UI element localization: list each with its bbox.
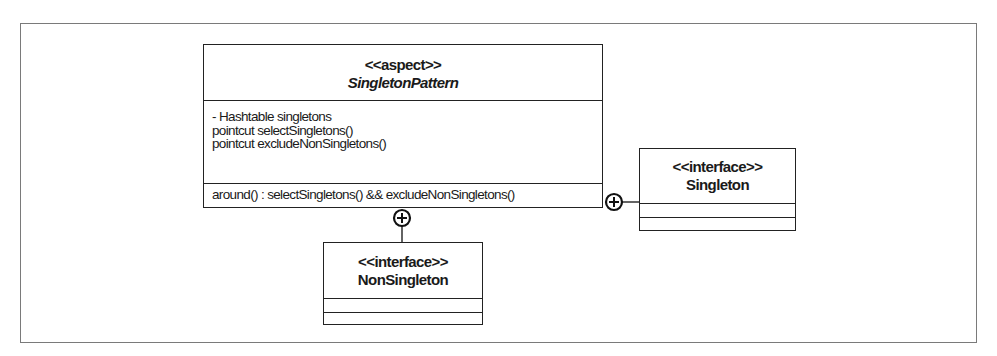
class-header: <<aspect>> SingletonPattern <box>204 45 602 100</box>
attributes-compartment <box>640 203 795 217</box>
stereotype-label: <<interface>> <box>673 158 763 176</box>
class-singleton: <<interface>> Singleton <box>639 148 796 231</box>
operations-compartment <box>324 312 482 324</box>
class-singleton-pattern: <<aspect>> SingletonPattern - Hashtable … <box>203 44 603 208</box>
attributes-compartment: - Hashtable singletons pointcut selectSi… <box>204 100 602 183</box>
stereotype-label: <<aspect>> <box>365 56 442 74</box>
pointcut-select-singletons: pointcut selectSingletons() <box>212 124 602 138</box>
operation-around-advice: around() : selectSingletons() && exclude… <box>212 188 602 202</box>
class-header: <<interface>> NonSingleton <box>324 243 482 298</box>
class-name: Singleton <box>686 176 749 194</box>
attributes-compartment <box>324 298 482 312</box>
attribute-singletons: - Hashtable singletons <box>212 110 602 124</box>
class-name: SingletonPattern <box>348 74 458 92</box>
pointcut-exclude-non-singletons: pointcut excludeNonSingletons() <box>212 137 602 151</box>
operations-compartment <box>640 217 795 230</box>
class-non-singleton: <<interface>> NonSingleton <box>323 242 483 325</box>
class-header: <<interface>> Singleton <box>640 149 795 203</box>
stereotype-label: <<interface>> <box>358 253 448 271</box>
operations-compartment: around() : selectSingletons() && exclude… <box>204 183 602 207</box>
class-name: NonSingleton <box>358 271 448 289</box>
